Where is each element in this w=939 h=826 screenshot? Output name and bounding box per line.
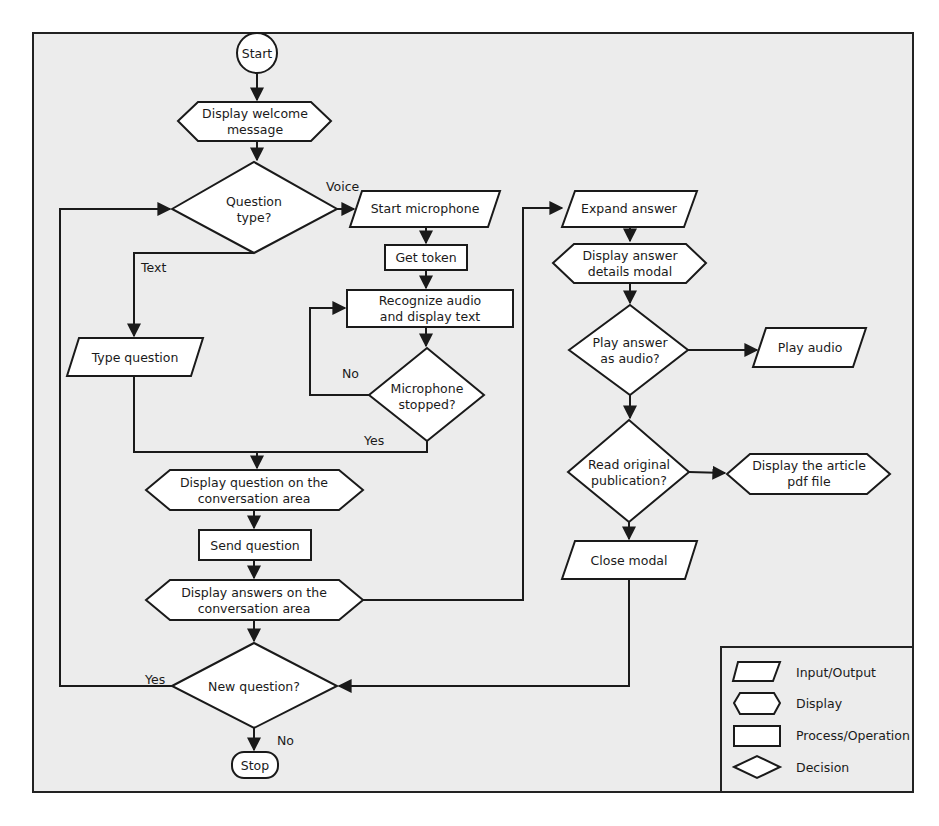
node-label: Close modal <box>591 553 668 568</box>
edge-label-no-mic: No <box>342 366 359 381</box>
edge-label-no-new: No <box>277 733 294 748</box>
legend-input-output-icon <box>733 662 780 681</box>
node-type-question: Type question <box>67 338 203 376</box>
node-display-article: Display the article pdf file <box>727 454 890 494</box>
node-get-token: Get token <box>385 245 467 270</box>
node-label: details modal <box>588 264 673 279</box>
node-label: Microphone <box>391 381 464 396</box>
node-label: conversation area <box>198 491 311 506</box>
node-stop: Stop <box>232 752 278 778</box>
node-close-modal: Close modal <box>562 541 697 579</box>
node-play-audio: Play audio <box>753 328 866 367</box>
node-label: publication? <box>591 473 667 488</box>
node-label: Display answers on the <box>181 585 327 600</box>
node-label: Expand answer <box>581 201 678 216</box>
node-label: Get token <box>395 250 456 265</box>
node-label: Display the article <box>752 458 866 473</box>
legend-label: Process/Operation <box>796 728 910 743</box>
node-expand-answer: Expand answer <box>562 191 697 227</box>
node-display-question: Display question on the conversation are… <box>146 470 363 510</box>
edge-readoriginal-article <box>689 472 725 473</box>
node-start: Start <box>237 33 277 73</box>
legend-label: Decision <box>796 760 849 775</box>
node-label: as audio? <box>600 351 659 366</box>
legend-process-icon <box>734 726 780 746</box>
node-label: and display text <box>380 309 481 324</box>
node-label: Play audio <box>778 340 843 355</box>
node-display-welcome: Display welcome message <box>178 102 331 141</box>
node-label: New question? <box>208 679 300 694</box>
node-label: pdf file <box>787 474 831 489</box>
legend-label: Input/Output <box>796 665 876 680</box>
legend: Input/Output Display Process/Operation D… <box>721 647 913 792</box>
node-label: message <box>227 122 283 137</box>
edge-label-text: Text <box>140 260 166 275</box>
node-label: Start <box>242 46 273 61</box>
legend-label: Display <box>796 696 843 711</box>
legend-display-icon <box>734 693 780 714</box>
node-answer-details: Display answer details modal <box>553 244 706 283</box>
node-start-microphone: Start microphone <box>350 191 500 227</box>
edge-label-yes-mic: Yes <box>363 433 384 448</box>
node-label: Question <box>226 194 282 209</box>
node-label: Start microphone <box>371 201 480 216</box>
node-display-answers: Display answers on the conversation area <box>146 580 363 620</box>
node-label: Read original <box>588 457 670 472</box>
node-label: conversation area <box>198 601 311 616</box>
edge-label-yes-new: Yes <box>144 672 165 687</box>
node-label: Play answer <box>592 335 668 350</box>
flowchart-canvas: Voice Text No Yes Yes No Start Display w… <box>0 0 939 826</box>
node-label: Recognize audio <box>379 293 482 308</box>
node-label: Display answer <box>582 248 678 263</box>
node-label: Type question <box>91 350 179 365</box>
edge-label-voice: Voice <box>326 179 360 194</box>
node-label: Stop <box>241 758 269 773</box>
node-send-question: Send question <box>199 530 311 560</box>
node-recognize-audio: Recognize audio and display text <box>347 290 513 327</box>
node-label: Display question on the <box>180 475 328 490</box>
node-label: stopped? <box>398 397 455 412</box>
node-label: Display welcome <box>202 106 308 121</box>
node-label: Send question <box>210 538 299 553</box>
node-label: type? <box>237 210 272 225</box>
